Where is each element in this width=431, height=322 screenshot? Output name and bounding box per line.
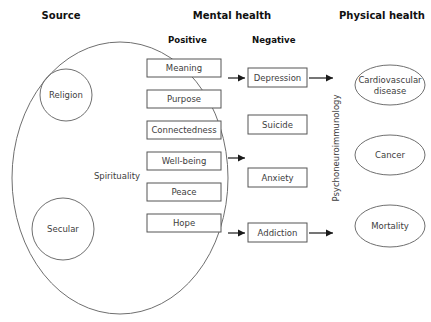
outcome-ellipses-group: CardiovasculardiseaseCancerMortality (355, 65, 425, 247)
outcome-label-2-0: Mortality (371, 221, 409, 231)
subheaders-group: PositiveNegative (168, 35, 296, 45)
arrows-group (228, 78, 333, 233)
positive-box-label-2: Connectedness (151, 125, 217, 135)
diagram-canvas: ReligionSecular MeaningPurposeConnectedn… (0, 0, 431, 322)
column-subheader-1: Negative (252, 35, 296, 45)
spirituality-label: Spirituality (94, 171, 140, 181)
positive-box-label-1: Purpose (167, 94, 201, 104)
mediator-label: Psychoneuroimmunology (331, 94, 341, 201)
positive-boxes-group: MeaningPurposeConnectednessWell-beingPea… (147, 59, 221, 232)
mediator-label-group: Psychoneuroimmunology (331, 94, 341, 201)
negative-boxes-group: DepressionSuicideAnxietyAddiction (248, 68, 307, 242)
column-header-1: Mental health (193, 10, 271, 21)
spirituality-label-group: Spirituality (94, 171, 140, 181)
outcome-label-1-0: Cancer (375, 150, 405, 160)
positive-box-label-3: Well-being (162, 156, 207, 166)
source-circles-group: ReligionSecular (32, 69, 94, 260)
negative-box-label-2: Anxiety (261, 173, 293, 183)
conceptual-diagram: ReligionSecular MeaningPurposeConnectedn… (0, 0, 431, 322)
source-circle-label-0: Religion (49, 90, 83, 100)
negative-box-label-1: Suicide (262, 120, 293, 130)
column-header-2: Physical health (339, 10, 425, 21)
positive-box-label-5: Hope (173, 218, 195, 228)
source-circle-label-1: Secular (47, 224, 79, 234)
outcome-label-0-1: disease (374, 86, 406, 96)
positive-box-label-4: Peace (171, 187, 196, 197)
negative-box-label-0: Depression (254, 73, 302, 83)
outcome-label-0-0: Cardiovascular (358, 75, 422, 85)
positive-box-label-0: Meaning (166, 63, 202, 73)
column-header-0: Source (42, 10, 81, 21)
headers-group: SourceMental healthPhysical health (42, 10, 425, 21)
negative-box-label-3: Addiction (258, 228, 298, 238)
column-subheader-0: Positive (168, 35, 207, 45)
